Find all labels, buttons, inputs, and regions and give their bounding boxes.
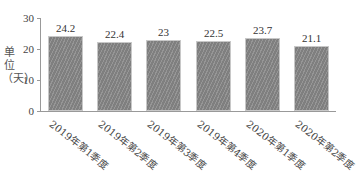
bar — [294, 46, 329, 111]
y-axis-label: 单位（天） — [2, 46, 16, 85]
bar-value-label: 23.7 — [243, 24, 283, 36]
bar — [97, 42, 132, 111]
bar-value-label: 24.2 — [46, 22, 86, 34]
bar — [48, 36, 83, 111]
bar-value-label: 23 — [144, 26, 184, 38]
bar — [245, 38, 280, 111]
y-tick-0: 0 — [16, 105, 34, 117]
bar-value-label: 22.5 — [194, 27, 234, 39]
bar — [196, 41, 231, 111]
x-axis-line — [40, 111, 336, 112]
bar-value-label: 21.1 — [292, 32, 332, 44]
bar-chart: 单位（天） 30 20 10 0 24.22019年第1季度22.42019年第… — [0, 0, 360, 171]
bar-value-label: 22.4 — [95, 28, 135, 40]
y-tick-30: 30 — [16, 12, 34, 24]
y-axis-line — [40, 18, 41, 111]
bar — [146, 40, 181, 111]
y-tick-20: 20 — [16, 43, 34, 55]
y-tick-10: 10 — [16, 74, 34, 86]
